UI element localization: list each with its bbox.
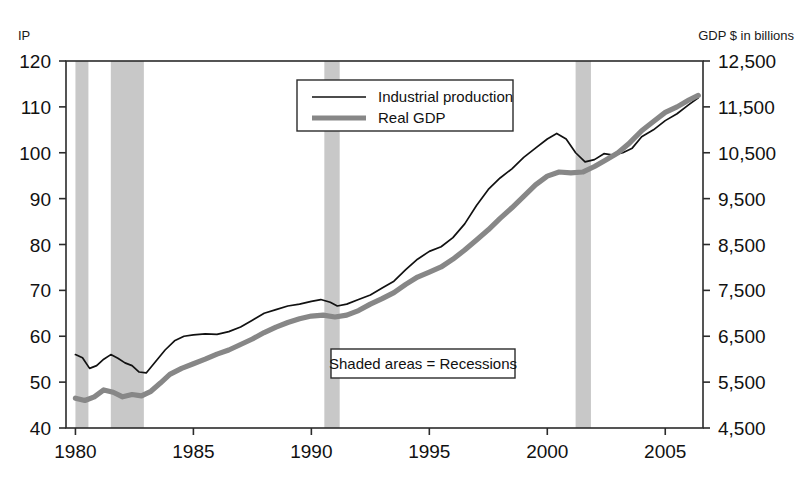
industrial-production-gdp-chart: 198019851990199520002005 405060708090100… — [0, 0, 812, 489]
y2-tick-label-10,500: 10,500 — [718, 143, 776, 164]
y2-tick-label-5,500: 5,500 — [718, 372, 766, 393]
y-tick-label-110: 110 — [21, 97, 51, 118]
y-tick-label-100: 100 — [19, 143, 51, 164]
y2-tick-label-11,500: 11,500 — [718, 97, 775, 118]
recession-band-4 — [576, 61, 591, 428]
y-tick-label-120: 120 — [19, 51, 51, 72]
x-tick-label-1995: 1995 — [408, 441, 450, 462]
annotation-label: Shaded areas = Recessions — [329, 355, 517, 372]
y-tick-label-70: 70 — [30, 280, 51, 301]
y-tick-label-90: 90 — [30, 189, 51, 210]
y2-tick-label-12,500: 12,500 — [718, 51, 776, 72]
y-tick-label-40: 40 — [30, 418, 51, 439]
x-tick-label-1990: 1990 — [290, 441, 332, 462]
y2-tick-label-7,500: 7,500 — [718, 280, 766, 301]
x-tick-label-1980: 1980 — [54, 441, 96, 462]
y2-tick-label-9,500: 9,500 — [718, 189, 766, 210]
chart-legend: Industrial production Real GDP — [297, 80, 513, 131]
recession-band-1 — [75, 61, 88, 428]
y-tick-label-60: 60 — [30, 326, 51, 347]
x-tick-label-1985: 1985 — [172, 441, 214, 462]
right-axis-title: GDP $ in billions — [698, 28, 794, 43]
y-tick-label-80: 80 — [30, 235, 51, 256]
recession-annotation: Shaded areas = Recessions — [329, 349, 517, 378]
chart-container: 198019851990199520002005 405060708090100… — [0, 0, 812, 489]
legend-label-industrial-production: Industrial production — [378, 88, 513, 105]
y-tick-label-50: 50 — [30, 372, 51, 393]
left-axis-title: IP — [18, 28, 30, 43]
x-tick-label-2000: 2000 — [526, 441, 568, 462]
x-tick-label-2005: 2005 — [644, 441, 686, 462]
y2-tick-label-8,500: 8,500 — [718, 235, 766, 256]
y2-tick-label-6,500: 6,500 — [718, 326, 766, 347]
recession-band-2 — [111, 61, 144, 428]
y2-tick-label-4,500: 4,500 — [718, 418, 766, 439]
legend-label-real-gdp: Real GDP — [378, 109, 446, 126]
